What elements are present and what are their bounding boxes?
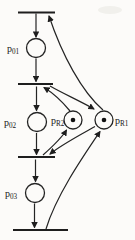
place-p01	[27, 39, 46, 58]
place-pR1-label: pR1	[115, 115, 129, 128]
token-pR1	[102, 118, 107, 123]
arc-pR1-t1	[49, 16, 103, 110]
petri-net-diagram: p01 p02 p03 pR2 pR1	[0, 0, 135, 240]
arc-t3-pR2	[43, 130, 67, 155]
token-pR2	[71, 118, 76, 123]
scan-smudge	[98, 6, 122, 14]
arc-t4-pR1	[46, 132, 100, 230]
place-p02-label: p02	[4, 117, 17, 130]
place-p03-label: p03	[5, 188, 18, 201]
place-p01-label: p01	[7, 43, 20, 56]
arc-pR2-t2	[44, 88, 70, 112]
place-pR2-label: pR2	[51, 115, 65, 128]
place-p03	[26, 184, 45, 203]
place-p02	[28, 113, 47, 132]
